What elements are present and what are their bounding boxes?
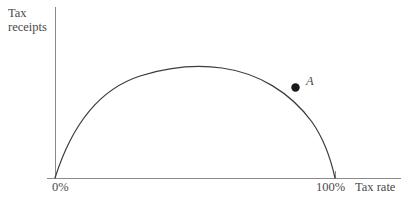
- y-axis-label-line-1: Tax: [8, 6, 47, 20]
- laffer-curve-figure: Tax receipts 0% 100% Tax rate A: [0, 0, 410, 211]
- x-axis-tick-label-max: 100%: [316, 180, 345, 194]
- y-axis-label: Tax receipts: [8, 6, 47, 34]
- point-a-marker: [291, 83, 299, 91]
- x-axis-label: Tax rate: [355, 180, 395, 194]
- x-axis-tick-label-min: 0%: [52, 180, 69, 194]
- y-axis-label-line-2: receipts: [8, 20, 47, 34]
- laffer-curve-path: [55, 67, 335, 178]
- point-a-label: A: [306, 74, 314, 88]
